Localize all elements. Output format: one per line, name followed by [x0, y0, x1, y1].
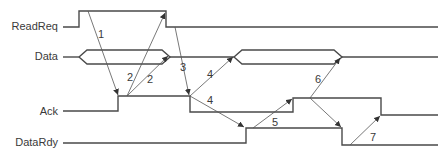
signal-label-ack: Ack [40, 105, 59, 117]
arrow-step-1 [88, 11, 118, 95]
timing-diagram: ReadReqDataAckDataRdy 122344567 [0, 0, 446, 156]
step-label-3: 3 [180, 61, 186, 73]
waveform-readreq [63, 11, 438, 27]
waveform-datardy [63, 128, 438, 145]
waveform-data [63, 50, 438, 64]
step-label-7: 7 [370, 131, 376, 143]
step-label-6: 6 [315, 73, 321, 85]
waveform-ack [63, 96, 438, 115]
signal-label-datardy: DataRdy [15, 136, 58, 148]
arrow-step-2 [127, 13, 165, 96]
arrow-step-6 [310, 98, 341, 127]
step-label-1: 1 [98, 28, 104, 40]
signal-labels: ReadReqDataAckDataRdy [12, 20, 59, 148]
step-label-4: 4 [207, 68, 213, 80]
signal-label-readreq: ReadReq [12, 20, 58, 32]
bus-valid-window [234, 50, 342, 64]
signal-label-data: Data [35, 50, 59, 62]
step-label-5: 5 [272, 116, 278, 128]
bus-valid-window [79, 50, 170, 64]
step-label-2: 2 [127, 71, 133, 83]
step-label-2: 2 [147, 73, 153, 85]
waveforms [63, 11, 438, 145]
step-label-4: 4 [207, 94, 213, 106]
step-labels: 122344567 [98, 28, 376, 143]
